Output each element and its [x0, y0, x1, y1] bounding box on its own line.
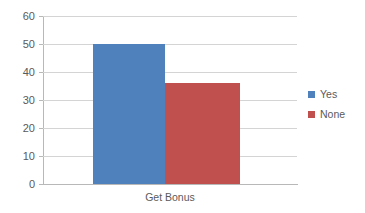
gridline-60	[43, 16, 297, 17]
y-tick-label-60: 60	[5, 11, 35, 22]
legend-swatch-icon-none	[308, 111, 315, 118]
legend-label-none: None	[320, 109, 345, 120]
bar-yes[interactable]	[93, 44, 165, 184]
y-tick-label-0: 0	[5, 179, 35, 190]
y-tick-label-50: 50	[5, 39, 35, 50]
y-tick-label-40: 40	[5, 67, 35, 78]
y-tick-label-10: 10	[5, 151, 35, 162]
legend-label-yes: Yes	[320, 89, 337, 100]
legend: Yes None	[308, 84, 363, 124]
legend-item-yes[interactable]: Yes	[308, 84, 363, 104]
gridline-40	[43, 72, 297, 73]
gridline-0-baseline	[43, 184, 297, 185]
y-tick-label-20: 20	[5, 123, 35, 134]
x-axis-category-label: Get Bonus	[43, 191, 297, 203]
bar-none[interactable]	[165, 83, 240, 184]
legend-item-none[interactable]: None	[308, 104, 363, 124]
bar-chart: 60 50 40 30 20 10 0 Get Bonus Yes	[0, 0, 365, 213]
y-tick-label-30: 30	[5, 95, 35, 106]
gridline-50	[43, 44, 297, 45]
plot-area	[43, 16, 297, 184]
legend-swatch-icon-yes	[308, 91, 315, 98]
